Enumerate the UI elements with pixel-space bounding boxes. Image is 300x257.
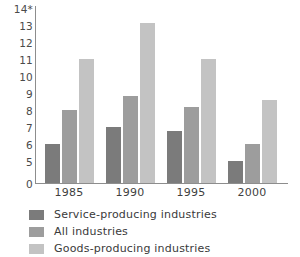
y-tick-label: 7 <box>3 123 33 133</box>
legend-label: Service-producing industries <box>54 209 217 221</box>
bar-group <box>167 0 216 184</box>
bar-goods-producing <box>140 23 155 183</box>
bar-all-industries <box>123 96 138 183</box>
bar-goods-producing <box>201 59 216 183</box>
bar-all-industries <box>184 107 199 183</box>
bars-layer <box>36 0 288 184</box>
bar-group <box>45 0 94 184</box>
chart-legend: Service-producing industries All industr… <box>29 207 294 257</box>
x-tick-label-1995: 1995 <box>165 186 217 200</box>
bar-chart: 14* 13 12 11 10 9 8 7 6 5 0 <box>0 0 300 257</box>
x-tick-label-1985: 1985 <box>43 186 95 200</box>
bar-goods-producing <box>79 59 94 183</box>
bar-service-producing <box>45 144 60 183</box>
bar-all-industries <box>62 110 77 183</box>
bar-goods-producing <box>262 100 277 183</box>
x-axis-labels: 1985 1990 1995 2000 <box>36 186 288 202</box>
legend-item-goods-producing: Goods-producing industries <box>29 241 294 257</box>
x-tick-label-2000: 2000 <box>226 186 278 200</box>
y-tick-label: 10 <box>3 72 33 82</box>
y-tick-label: 5 <box>3 157 33 167</box>
y-tick-label: 12 <box>3 38 33 48</box>
bar-all-industries <box>245 144 260 183</box>
y-tick-label: 14* <box>3 4 33 14</box>
y-tick-label: 6 <box>3 140 33 150</box>
y-tick-label: 11 <box>3 55 33 65</box>
bar-group <box>228 0 277 184</box>
y-axis-ticks: 14* 13 12 11 10 9 8 7 6 5 0 <box>0 0 33 190</box>
x-tick-label-1990: 1990 <box>104 186 156 200</box>
y-tick-label: 0 <box>3 179 33 189</box>
plot-area: 14* 13 12 11 10 9 8 7 6 5 0 <box>0 0 300 200</box>
legend-item-all-industries: All industries <box>29 224 294 240</box>
legend-label: All industries <box>54 226 128 238</box>
legend-item-service-producing: Service-producing industries <box>29 207 294 223</box>
bar-service-producing <box>167 131 182 183</box>
bar-group <box>106 0 155 184</box>
bar-service-producing <box>106 127 121 183</box>
y-tick-label: 8 <box>3 106 33 116</box>
legend-label: Goods-producing industries <box>54 243 210 255</box>
bar-service-producing <box>228 161 243 183</box>
legend-swatch-goods-producing <box>29 244 44 254</box>
legend-swatch-service-producing <box>29 210 44 220</box>
y-tick-label: 13 <box>3 21 33 31</box>
legend-swatch-all-industries <box>29 227 44 237</box>
y-tick-label: 9 <box>3 89 33 99</box>
